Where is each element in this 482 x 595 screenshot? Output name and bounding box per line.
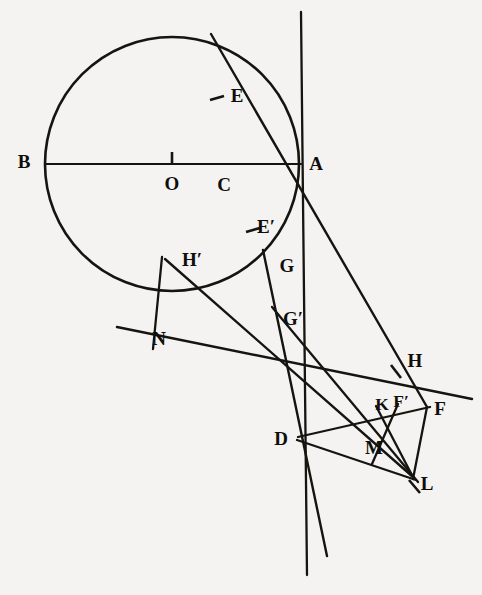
label-M: M: [365, 437, 383, 458]
label-F: F: [434, 398, 446, 419]
label-L: L: [421, 473, 434, 494]
tick-at-H: [391, 365, 401, 378]
line-F-to-L: [413, 407, 427, 479]
tick-at-E: [210, 96, 224, 100]
label-C: C: [217, 174, 231, 195]
geometry-diagram-svg: B A O C E E′ G G′ H′ N H K F′ F D M L: [0, 0, 482, 595]
geometric-figure-canvas: B A O C E E′ G G′ H′ N H K F′ F D M L: [0, 0, 482, 595]
label-D: D: [274, 428, 288, 449]
label-A: A: [309, 153, 323, 174]
line-G-through-D-extended: [263, 250, 327, 556]
label-H: H: [408, 350, 423, 371]
label-E: E: [231, 85, 244, 106]
label-G-prime: G′: [283, 308, 303, 329]
label-G: G: [280, 255, 295, 276]
label-N: N: [152, 328, 166, 349]
label-E-prime: E′: [257, 216, 275, 237]
label-K: K: [375, 394, 389, 414]
label-F-prime: F′: [393, 391, 409, 411]
tangent-line-vertical: [301, 12, 307, 575]
label-O: O: [165, 173, 180, 194]
label-H-prime: H′: [182, 249, 202, 270]
secant-line-through-E-C-Eprime-G-to-F: [211, 34, 427, 407]
label-B: B: [18, 151, 31, 172]
